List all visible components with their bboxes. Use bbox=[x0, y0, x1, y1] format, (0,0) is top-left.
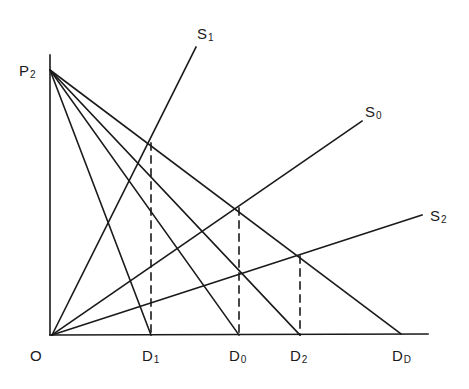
supply-line-s0 bbox=[52, 121, 362, 335]
label-p2: P2 bbox=[19, 63, 36, 80]
supply-line-s1 bbox=[52, 47, 196, 335]
demand-line-d1 bbox=[50, 70, 151, 335]
label-origin: O bbox=[30, 348, 42, 363]
label-d1: D1 bbox=[142, 348, 159, 365]
label-s2: S2 bbox=[430, 208, 447, 225]
demand-line-d0 bbox=[50, 70, 239, 335]
demand-line-dd bbox=[50, 70, 401, 334]
label-dd: DD bbox=[392, 348, 411, 365]
supply-demand-diagram bbox=[0, 0, 469, 389]
label-s1: S1 bbox=[197, 26, 214, 43]
label-d2: D2 bbox=[290, 348, 307, 365]
label-d0: D0 bbox=[229, 348, 246, 365]
label-s0: S0 bbox=[365, 104, 382, 121]
supply-line-s2 bbox=[52, 215, 422, 335]
